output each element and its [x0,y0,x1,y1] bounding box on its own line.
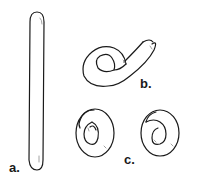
coil-diagram: a. b. c. [0,0,197,180]
spiral-coil-c-left [76,109,114,157]
coil-drawing [0,0,197,180]
label-a: a. [9,161,20,174]
spiral-coil-c-right [141,110,179,156]
straight-coil-a [29,12,44,170]
label-c: c. [124,153,135,166]
label-b: b. [140,77,152,90]
